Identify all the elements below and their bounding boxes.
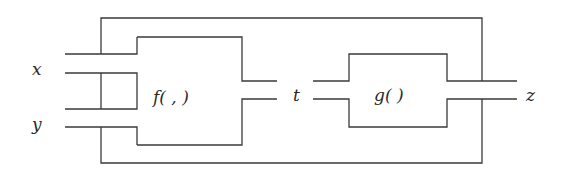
- label-t: t: [293, 85, 300, 105]
- label-g: g( ): [374, 85, 404, 105]
- label-z: z: [525, 85, 536, 105]
- label-x: x: [32, 59, 42, 79]
- block-g: [313, 54, 517, 127]
- composition-diagram: x y f( , ) t g( ) z: [0, 0, 562, 171]
- label-y: y: [31, 114, 42, 134]
- label-f: f( , ): [151, 87, 189, 107]
